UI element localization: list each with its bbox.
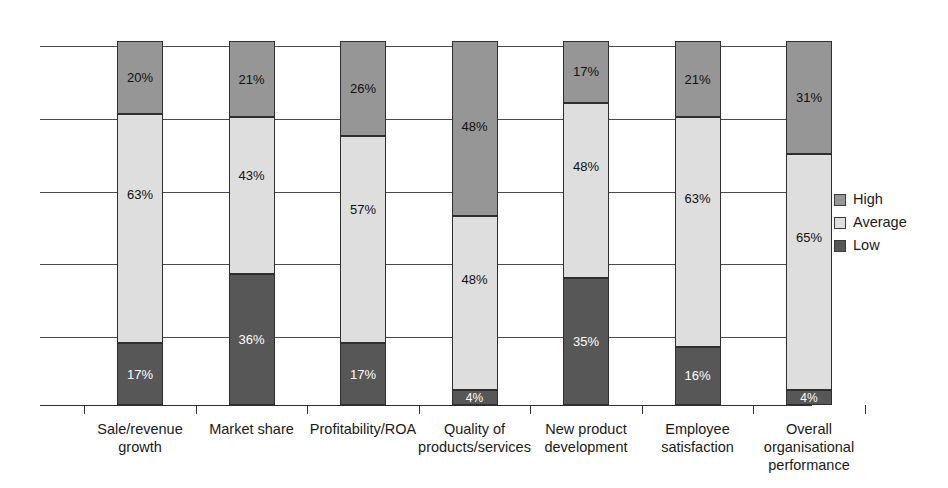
bar-segment-value: 21% — [684, 73, 710, 86]
axis-tick — [196, 405, 197, 414]
bar-segment-average[interactable]: 57% — [340, 136, 386, 343]
axis-tick — [530, 405, 531, 414]
bar-group[interactable]: 21%43%36% — [229, 41, 275, 405]
bar-segment-value: 21% — [238, 73, 264, 86]
bar-segment-low[interactable]: 16% — [675, 347, 721, 405]
bar-segment-high[interactable]: 21% — [675, 41, 721, 117]
bar-segment-low[interactable]: 17% — [117, 343, 163, 405]
bar-segment-low[interactable]: 36% — [229, 274, 275, 405]
category-label-line: Quality of — [413, 420, 537, 438]
bar-segment-low[interactable]: 35% — [563, 278, 609, 405]
bar-group[interactable]: 26%57%17% — [340, 41, 386, 405]
bar-group[interactable]: 20%63%17% — [117, 41, 163, 405]
legend-swatch-icon — [834, 217, 846, 229]
axis-tick — [865, 405, 866, 414]
bar-segment-value: 17% — [573, 65, 599, 78]
bar-segment-value: 35% — [573, 335, 599, 348]
category-label: Employeesatisfaction — [636, 420, 760, 456]
bar-segment-average[interactable]: 65% — [786, 154, 832, 391]
bar-segment-value: 43% — [238, 169, 264, 182]
axis-tick — [753, 405, 754, 414]
bar-segment-low[interactable]: 4% — [786, 390, 832, 405]
axis-tick — [84, 405, 85, 414]
bar-segment-high[interactable]: 20% — [117, 41, 163, 114]
bar-segment-low[interactable]: 4% — [452, 390, 498, 405]
bar-segment-high[interactable]: 17% — [563, 41, 609, 103]
bar-segment-average[interactable]: 63% — [117, 114, 163, 343]
category-label-line: organisational — [747, 438, 871, 456]
category-label: Sale/revenuegrowth — [78, 420, 202, 456]
category-label-line: Profitability/ROA — [301, 420, 425, 438]
bar-group[interactable]: 31%65%4% — [786, 41, 832, 405]
bar-group[interactable]: 21%63%16% — [675, 41, 721, 405]
category-label-line: development — [524, 438, 648, 456]
bar-segment-value: 17% — [350, 368, 376, 381]
bar-segment-value: 4% — [800, 392, 817, 404]
bar-group[interactable]: 17%48%35% — [563, 41, 609, 405]
bar-segment-average[interactable]: 48% — [563, 103, 609, 278]
category-label-line: Employee — [636, 420, 760, 438]
category-label-line: growth — [78, 438, 202, 456]
category-label-line: Market share — [190, 420, 314, 438]
axis-tick — [307, 405, 308, 414]
bar-segment-high[interactable]: 21% — [229, 41, 275, 117]
bar-segment-value: 17% — [127, 368, 153, 381]
axis-tick — [419, 405, 420, 414]
bar-segment-average[interactable]: 43% — [229, 117, 275, 274]
bar-segment-value: 48% — [461, 120, 487, 133]
bar-segment-low[interactable]: 17% — [340, 343, 386, 405]
bar-segment-average[interactable]: 48% — [452, 216, 498, 391]
category-label-line: satisfaction — [636, 438, 760, 456]
chart-legend: HighAverageLow — [834, 188, 940, 257]
bar-segment-high[interactable]: 48% — [452, 41, 498, 216]
category-label-line: Sale/revenue — [78, 420, 202, 438]
category-label: Overallorganisationalperformance — [747, 420, 871, 474]
category-label: New productdevelopment — [524, 420, 648, 456]
category-label: Market share — [190, 420, 314, 438]
x-axis-line — [40, 405, 812, 406]
category-label: Profitability/ROA — [301, 420, 425, 438]
category-label: Quality ofproducts/services — [413, 420, 537, 456]
plot-area: 20%63%17%21%43%36%26%57%17%48%48%4%17%48… — [40, 41, 810, 405]
category-label-line: Overall — [747, 420, 871, 438]
bar-segment-value: 36% — [238, 333, 264, 346]
bar-segment-value: 65% — [796, 231, 822, 244]
bar-segment-value: 16% — [684, 369, 710, 382]
legend-label: Average — [853, 215, 907, 230]
bar-segment-high[interactable]: 26% — [340, 41, 386, 136]
bar-segment-average[interactable]: 63% — [675, 117, 721, 346]
bar-segment-value: 63% — [127, 188, 153, 201]
category-label-line: performance — [747, 456, 871, 474]
bar-segment-high[interactable]: 31% — [786, 41, 832, 154]
bar-segment-value: 31% — [796, 91, 822, 104]
bar-segment-value: 63% — [684, 192, 710, 205]
bar-segment-value: 4% — [466, 392, 483, 404]
legend-swatch-icon — [834, 194, 846, 206]
axis-tick — [642, 405, 643, 414]
legend-item-low[interactable]: Low — [834, 234, 940, 257]
legend-label: High — [853, 192, 883, 207]
bar-segment-value: 48% — [573, 160, 599, 173]
legend-item-average[interactable]: Average — [834, 211, 940, 234]
category-label-line: New product — [524, 420, 648, 438]
bar-segment-value: 57% — [350, 203, 376, 216]
bar-segment-value: 48% — [461, 273, 487, 286]
legend-label: Low — [853, 238, 880, 253]
bar-segment-value: 26% — [350, 82, 376, 95]
bar-segment-value: 20% — [127, 71, 153, 84]
legend-swatch-icon — [834, 240, 846, 252]
bar-group[interactable]: 48%48%4% — [452, 41, 498, 405]
stacked-bar-chart: 20%63%17%21%43%36%26%57%17%48%48%4%17%48… — [0, 0, 948, 488]
legend-item-high[interactable]: High — [834, 188, 940, 211]
category-label-line: products/services — [413, 438, 537, 456]
